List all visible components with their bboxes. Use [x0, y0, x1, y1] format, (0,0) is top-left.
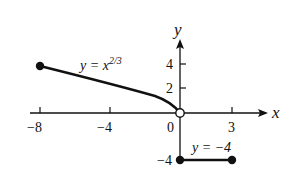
closed-endpoint-m8-4 [36, 62, 44, 70]
y-axis-label: y [172, 20, 182, 39]
y-tick-label-2: 2 [166, 81, 173, 96]
y-tick-label-m4: −4 [157, 153, 172, 168]
open-endpoint-origin [176, 109, 184, 117]
x-tick-label-3: 3 [228, 120, 235, 135]
curve-x-two-thirds [40, 66, 180, 113]
x-tick-label-m4: −4 [97, 120, 112, 135]
closed-endpoint-3-m4 [228, 156, 236, 164]
x-tick-label-0: 0 [167, 120, 174, 135]
y-tick-label-4: 4 [166, 57, 173, 72]
segment-label: y = −4 [190, 140, 231, 155]
x-tick-label-m8: −8 [27, 120, 42, 135]
closed-endpoint-0-m4 [176, 156, 184, 164]
curve-label: y = x2/3 [78, 55, 122, 73]
piecewise-graph: x y −8 −4 0 3 4 2 −4 y = x2/3 y = −4 [0, 0, 291, 173]
x-axis-label: x [271, 103, 280, 122]
